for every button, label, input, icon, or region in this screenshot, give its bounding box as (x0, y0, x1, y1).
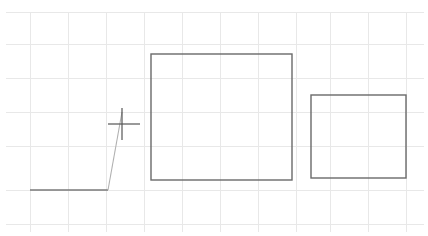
canvas-background (0, 0, 428, 236)
drawing-canvas[interactable] (0, 0, 428, 236)
drawing-svg[interactable] (0, 0, 428, 236)
